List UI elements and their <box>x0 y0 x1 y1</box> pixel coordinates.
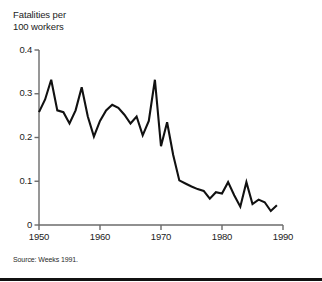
y-tick-label-4: 0.4 <box>6 45 32 55</box>
axes-group <box>35 50 284 230</box>
y-tick-label-0: 0 <box>6 220 32 230</box>
x-tick-label-2: 1970 <box>144 232 178 242</box>
x-tick-label-1: 1960 <box>83 232 117 242</box>
y-tick-label-3: 0.3 <box>6 88 32 98</box>
x-tick-label-4: 1990 <box>266 232 300 242</box>
source-note: Source: Weeks 1991. <box>13 255 78 264</box>
fatality-rate-line <box>39 80 277 211</box>
chart-figure: Fatalities per 100 workers 00.10.20.30.4… <box>0 0 322 282</box>
y-tick-label-2: 0.2 <box>6 132 32 142</box>
x-tick-label-0: 1950 <box>22 232 56 242</box>
x-tick-label-3: 1980 <box>205 232 239 242</box>
bottom-rule <box>0 278 322 281</box>
data-series-group <box>39 80 277 211</box>
y-tick-label-1: 0.1 <box>6 176 32 186</box>
